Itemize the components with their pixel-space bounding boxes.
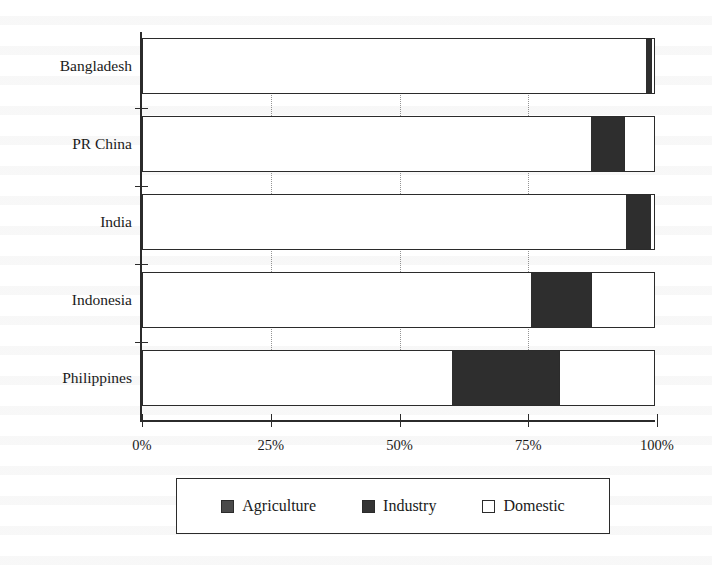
stacked-bar-chart: Bangladesh PR China India <box>0 0 712 565</box>
legend-item-agriculture[interactable]: Agriculture <box>221 497 316 515</box>
chart-legend: Agriculture Industry Domestic <box>176 478 610 534</box>
segment-domestic[interactable] <box>624 117 654 171</box>
x-axis-tick <box>657 414 658 427</box>
legend-swatch-icon-industry <box>362 500 375 513</box>
category-label-india: India <box>10 214 132 230</box>
x-axis-tick <box>142 414 143 427</box>
bar-row: India <box>142 194 655 250</box>
y-axis-tick <box>135 186 148 187</box>
legend-item-industry[interactable]: Industry <box>362 497 436 515</box>
x-axis-tick <box>400 414 401 427</box>
legend-swatch-icon-domestic <box>482 500 495 513</box>
x-axis-tick-label-0: 0% <box>132 437 151 454</box>
x-axis-tick-label-100: 100% <box>640 437 674 454</box>
segment-industry[interactable] <box>452 351 559 405</box>
bar-row: PR China <box>142 116 655 172</box>
segment-domestic[interactable] <box>591 273 654 327</box>
legend-label-domestic: Domestic <box>503 497 564 515</box>
stacked-bar-pr-china[interactable] <box>142 116 655 172</box>
x-axis-tick <box>528 414 529 427</box>
legend-label-agriculture: Agriculture <box>242 497 316 515</box>
segment-agriculture[interactable] <box>143 351 452 405</box>
bar-row: Indonesia <box>142 272 655 328</box>
segment-domestic[interactable] <box>651 39 654 93</box>
category-label-indonesia: Indonesia <box>10 292 132 308</box>
y-axis-tick <box>135 108 148 109</box>
legend-label-industry: Industry <box>383 497 436 515</box>
stacked-bar-philippines[interactable] <box>142 350 655 406</box>
category-label-bangladesh: Bangladesh <box>10 58 132 74</box>
segment-agriculture[interactable] <box>143 273 531 327</box>
category-label-philippines: Philippines <box>10 370 132 386</box>
segment-domestic[interactable] <box>650 195 654 249</box>
segment-agriculture[interactable] <box>143 39 646 93</box>
y-axis-tick <box>135 264 148 265</box>
x-axis-tick <box>271 414 272 427</box>
segment-industry[interactable] <box>531 273 590 327</box>
stacked-bar-indonesia[interactable] <box>142 272 655 328</box>
segment-industry[interactable] <box>626 195 650 249</box>
stacked-bar-india[interactable] <box>142 194 655 250</box>
x-axis-tick-label-25: 25% <box>257 437 284 454</box>
x-axis-tick-label-75: 75% <box>515 437 542 454</box>
segment-domestic[interactable] <box>559 351 654 405</box>
segment-agriculture[interactable] <box>143 117 591 171</box>
bar-row: Philippines <box>142 350 655 406</box>
segment-agriculture[interactable] <box>143 195 626 249</box>
segment-industry[interactable] <box>591 117 624 171</box>
category-label-pr-china: PR China <box>10 136 132 152</box>
legend-swatch-icon-agriculture <box>221 500 234 513</box>
plot-area: Bangladesh PR China India <box>140 32 655 422</box>
stacked-bar-bangladesh[interactable] <box>142 38 655 94</box>
bar-row: Bangladesh <box>142 38 655 94</box>
x-axis-tick-label-50: 50% <box>386 437 413 454</box>
legend-item-domestic[interactable]: Domestic <box>482 497 564 515</box>
y-axis-tick <box>135 342 148 343</box>
